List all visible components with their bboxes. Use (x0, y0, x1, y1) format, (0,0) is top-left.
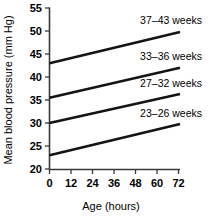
x-tick-label-0: 0 (46, 177, 52, 189)
y-axis-title: Mean blood pressure (mm Hg) (2, 15, 14, 164)
chart-container: 55 50 45 40 35 30 25 20 0 12 24 36 48 (0, 0, 208, 220)
y-tick-label-50: 50 (30, 25, 42, 37)
y-tick-label-35: 35 (30, 94, 42, 106)
x-tick-label-12: 12 (65, 177, 77, 189)
series-label-27-32-weeks: 27–32 weeks (140, 77, 202, 89)
x-tick-label-72: 72 (172, 177, 184, 189)
y-tick-label-55: 55 (30, 2, 42, 14)
x-tick-label-24: 24 (86, 177, 99, 189)
x-axis-title: Age (hours) (82, 200, 139, 212)
x-tick-label-36: 36 (108, 177, 120, 189)
series-label-23-26-weeks: 23–26 weeks (140, 107, 202, 119)
y-tick-label-30: 30 (30, 117, 42, 129)
x-tick-label-48: 48 (129, 177, 141, 189)
series-line-23-26-weeks (50, 124, 181, 155)
blood-pressure-line-chart: 55 50 45 40 35 30 25 20 0 12 24 36 48 (0, 0, 208, 220)
y-tick-label-25: 25 (30, 140, 42, 152)
y-tick-label-45: 45 (30, 48, 42, 60)
series-label-33-36-weeks: 33–36 weeks (140, 50, 202, 62)
series-label-37-43-weeks: 37–43 weeks (140, 14, 202, 26)
y-tick-label-20: 20 (30, 163, 42, 175)
y-tick-label-40: 40 (30, 71, 42, 83)
x-tick-label-60: 60 (151, 177, 163, 189)
